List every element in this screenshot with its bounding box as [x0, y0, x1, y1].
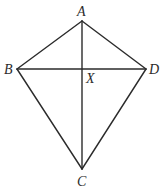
vertex-label-b: B: [4, 62, 13, 77]
vertex-label-d: D: [148, 62, 159, 77]
edge-bc: [17, 69, 82, 169]
edge-ab: [17, 21, 82, 69]
kite-diagram: A B D C X: [0, 0, 168, 196]
edge-ad: [82, 21, 146, 69]
vertex-label-c: C: [77, 174, 87, 189]
intersection-label-x: X: [85, 71, 95, 86]
vertex-label-a: A: [76, 4, 86, 19]
